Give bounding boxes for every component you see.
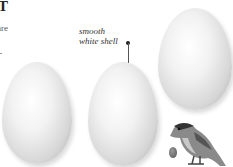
- page-title: T: [0, 0, 8, 15]
- intro-text: are: [0, 22, 8, 34]
- shell-annotation: smooth white shell: [79, 26, 118, 46]
- bird-illustration: [164, 118, 228, 167]
- egg-left: [2, 62, 72, 164]
- intro-line-1: are: [0, 23, 8, 33]
- annotation-line-2: white shell: [79, 36, 118, 46]
- egg-right: [158, 8, 232, 110]
- annotation-line-1: smooth: [79, 26, 118, 36]
- text-fragment: [0, 53, 2, 54]
- egg-middle: [88, 62, 158, 166]
